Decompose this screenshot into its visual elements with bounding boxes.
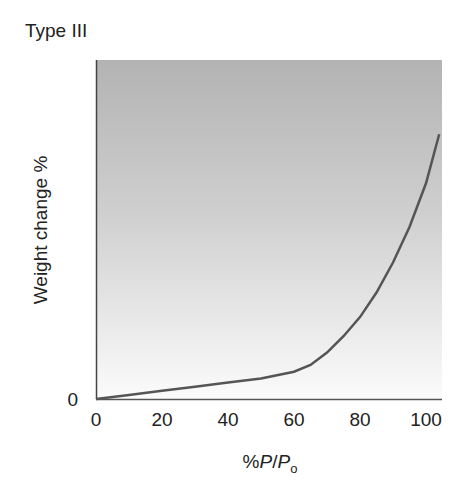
x-tick-20: 20 xyxy=(151,409,172,430)
x-axis-label: %P/Po xyxy=(243,451,298,476)
x-tick-80: 80 xyxy=(349,409,370,430)
x-tick-40: 40 xyxy=(217,409,238,430)
y-axis-label: Weight change % xyxy=(30,156,51,305)
x-tick-60: 60 xyxy=(283,409,304,430)
plot-area xyxy=(96,60,442,399)
x-tick-100: 100 xyxy=(410,409,442,430)
y-tick-0: 0 xyxy=(67,389,78,410)
x-tick-0: 0 xyxy=(91,409,102,430)
chart: 0 020406080100 Weight change % %P/Po xyxy=(0,0,464,481)
